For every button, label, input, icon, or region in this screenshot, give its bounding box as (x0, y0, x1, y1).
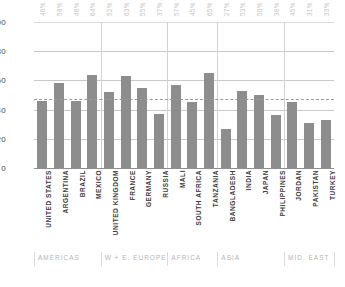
category-label: GERMANY (145, 170, 152, 207)
bar (204, 73, 214, 168)
region-label: AFRICA (171, 254, 201, 261)
bar-value-label: 31% (306, 2, 313, 16)
x-axis-baseline (34, 168, 334, 169)
bar (54, 83, 64, 168)
y-axis-tick-label: 100 (0, 18, 6, 27)
bar (121, 76, 131, 168)
region-separator (101, 252, 102, 266)
bar-value-label: 45% (289, 2, 296, 16)
region-separator (284, 252, 285, 266)
bar-value-label: 27% (223, 2, 230, 16)
category-label: MALI (179, 170, 186, 188)
region-separator (217, 252, 218, 266)
bar (237, 91, 247, 168)
bar-item: 55% (137, 22, 147, 168)
bar (104, 92, 114, 168)
bar (87, 75, 97, 168)
bar-item: 65% (204, 22, 214, 168)
category-label: UNITED KINGDOM (112, 170, 119, 235)
region-separator (167, 252, 168, 266)
bar (171, 85, 181, 168)
bar-value-label: 55% (139, 2, 146, 16)
bar-item: 50% (254, 22, 264, 168)
bar-value-label: 46% (39, 2, 46, 16)
category-label: UNITED STATES (45, 170, 52, 228)
bar-item: 52% (104, 22, 114, 168)
bar (71, 101, 81, 168)
bar (304, 123, 314, 168)
region-separator (334, 252, 335, 266)
bar (254, 95, 264, 168)
bar-item: 27% (221, 22, 231, 168)
bar-item: 33% (321, 22, 331, 168)
bar-value-label: 53% (239, 2, 246, 16)
bar-value-label: 57% (173, 2, 180, 16)
category-label: PHILIPPINES (279, 170, 286, 217)
bar-value-label: 46% (73, 2, 80, 16)
bar (221, 129, 231, 168)
bar-value-label: 64% (89, 2, 96, 16)
bar-item: 53% (237, 22, 247, 168)
bar (287, 102, 297, 168)
region-label: W + E. EUROPE (105, 254, 167, 261)
bar-value-label: 63% (123, 2, 130, 16)
region-label: MID. EAST (288, 254, 330, 261)
category-label: PAKISTAN (312, 170, 319, 207)
region-label: ASIA (221, 254, 240, 261)
bar-item: 58% (54, 22, 64, 168)
y-axis-tick-label: 20 (0, 134, 6, 143)
category-label: RUSSIA (162, 170, 169, 198)
bar-item: 45% (287, 22, 297, 168)
bar (187, 102, 197, 168)
bar-item: 64% (87, 22, 97, 168)
region-separator (34, 252, 35, 266)
bar-chart: 46%58%46%64%52%63%55%37%57%45%65%27%53%5… (0, 0, 345, 287)
bar (321, 120, 331, 168)
category-label: BANGLADESH (229, 170, 236, 221)
reference-line (34, 99, 334, 100)
bar (154, 114, 164, 168)
bar-value-label: 58% (56, 2, 63, 16)
bar-item: 37% (154, 22, 164, 168)
bar-item: 63% (121, 22, 131, 168)
category-label: TURKEY (329, 170, 336, 200)
bar-value-label: 50% (256, 2, 263, 16)
bar-item: 45% (187, 22, 197, 168)
category-label: TANZANIA (212, 170, 219, 207)
plot-area: 46%58%46%64%52%63%55%37%57%45%65%27%53%5… (34, 22, 334, 168)
bar-series: 46%58%46%64%52%63%55%37%57%45%65%27%53%5… (34, 22, 334, 168)
region-band: AMERICASW + E. EUROPEAFRICAASIAMID. EAST (34, 252, 334, 270)
y-axis-tick-label: 0 (0, 164, 6, 173)
category-label: SOUTH AFRICA (195, 170, 202, 225)
bar-value-label: 65% (206, 2, 213, 16)
region-label: AMERICAS (38, 254, 80, 261)
bar (271, 115, 281, 168)
category-label: JORDAN (295, 170, 302, 201)
x-axis-category-labels: UNITED STATESARGENTINABRAZILMEXICOUNITED… (34, 170, 334, 250)
y-axis-tick-label: 40 (0, 105, 6, 114)
bar-value-label: 36% (273, 2, 280, 16)
category-label: BRAZIL (79, 170, 86, 197)
bar-item: 36% (271, 22, 281, 168)
bar-item: 46% (71, 22, 81, 168)
category-label: JAPAN (262, 170, 269, 194)
bar-item: 57% (171, 22, 181, 168)
bar-value-label: 33% (323, 2, 330, 16)
y-axis-tick-label: 80 (0, 47, 6, 56)
bar (37, 101, 47, 168)
category-label: ARGENTINA (62, 170, 69, 214)
bar-value-label: 45% (189, 2, 196, 16)
bar-value-label: 52% (106, 2, 113, 16)
y-axis-tick-label: 60 (0, 76, 6, 85)
category-label: FRANCE (129, 170, 136, 200)
category-label: MEXICO (95, 170, 102, 199)
bar-item: 31% (304, 22, 314, 168)
category-label: INDIA (245, 170, 252, 190)
bar-value-label: 37% (156, 2, 163, 16)
bar-item: 46% (37, 22, 47, 168)
